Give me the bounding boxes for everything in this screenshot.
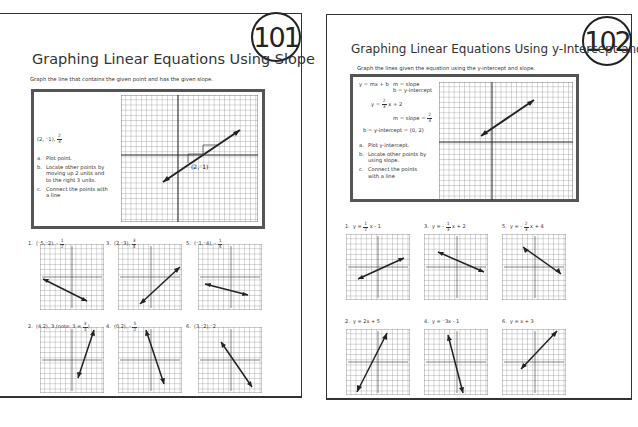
worksheet-page-101: 101 Graphing Linear Equations Using Slop… bbox=[0, 13, 302, 398]
problem-3-graph[interactable] bbox=[118, 244, 182, 310]
slope-fraction: 23 bbox=[57, 134, 62, 144]
slope-intercept-form: y = mx + b bbox=[359, 81, 389, 87]
example-graph: (2,⁻1) bbox=[121, 95, 258, 222]
example-box: y = mx + b m = slope b = y-intercept y =… bbox=[350, 74, 579, 202]
problem-3-graph[interactable] bbox=[424, 234, 488, 300]
page-title: Graphing Linear Equations Using Slope bbox=[32, 51, 315, 67]
example-slope: m = slope = 23 bbox=[393, 113, 432, 123]
page-title: Graphing Linear Equations Using y-Interc… bbox=[351, 42, 638, 56]
problem-5-graph[interactable] bbox=[502, 234, 566, 300]
page-instruction: Graph the line that contains the given p… bbox=[30, 76, 213, 82]
problem-2-graph[interactable] bbox=[346, 329, 410, 395]
example-steps: a.Plot y-intercept. b.Locate other point… bbox=[359, 142, 427, 182]
example-box: (2, ⁻1), 23 a.Plot point. b.Locate other… bbox=[31, 89, 265, 229]
problem-6-label: 6. y = x + 3 bbox=[502, 318, 534, 324]
problem-5-graph[interactable] bbox=[198, 244, 262, 310]
example-steps: a.Plot point. b.Locate other points by m… bbox=[37, 155, 109, 201]
problem-6-graph[interactable] bbox=[198, 327, 262, 393]
problem-4-graph[interactable] bbox=[424, 329, 488, 395]
worksheet-page-102: 102 Graphing Linear Equations Using y-In… bbox=[326, 14, 632, 400]
svg-text:(2,⁻1): (2,⁻1) bbox=[191, 163, 208, 170]
variable-definitions: m = slope b = y-intercept bbox=[393, 81, 432, 94]
problem-4-label: 4. y = ⁻3x - 1 bbox=[424, 318, 459, 324]
problem-2-graph[interactable] bbox=[40, 327, 104, 393]
problem-2-label: 2. y = 2x + 5 bbox=[345, 318, 380, 324]
example-equation: y = 23 x + 2 bbox=[371, 99, 402, 109]
problem-4-graph[interactable] bbox=[118, 327, 182, 393]
example-graph bbox=[439, 82, 573, 200]
example-intercept: b = y-intercept = (0, 2) bbox=[363, 127, 424, 133]
problem-1-graph[interactable] bbox=[346, 234, 410, 300]
page-number-badge: 102 bbox=[582, 16, 632, 66]
problem-5-label: 5. y = - 23 x + 4 bbox=[502, 222, 544, 232]
problem-6-graph[interactable] bbox=[502, 329, 566, 395]
problem-1-graph[interactable] bbox=[40, 244, 104, 310]
example-given: (2, ⁻1), 23 bbox=[37, 134, 62, 144]
problem-3-label: 3. y = - 13 x + 2 bbox=[424, 222, 466, 232]
problem-1-label: 1. y = 12 x - 1 bbox=[345, 222, 381, 232]
page-instruction: Graph the lines given the equation using… bbox=[357, 65, 535, 71]
